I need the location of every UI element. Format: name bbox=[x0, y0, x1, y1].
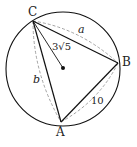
arc-label-10: 10 bbox=[91, 95, 104, 106]
point-label-c: C bbox=[28, 5, 37, 19]
point-label-a: A bbox=[55, 125, 65, 139]
radius-label: 3√5 bbox=[52, 41, 71, 52]
diagram-canvas: C B A a b 10 3√5 bbox=[0, 0, 137, 147]
side-CA bbox=[33, 21, 61, 122]
side-CB bbox=[33, 21, 118, 63]
point-label-b: B bbox=[122, 55, 131, 69]
arc-label-a: a bbox=[78, 23, 85, 36]
center-dot bbox=[61, 66, 65, 70]
circle-triangle-diagram: C B A a b 10 3√5 bbox=[0, 0, 137, 147]
arc-label-b: b bbox=[33, 73, 40, 86]
side-AB bbox=[61, 63, 118, 122]
